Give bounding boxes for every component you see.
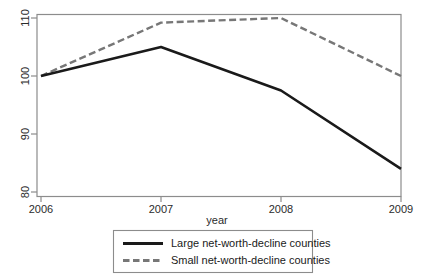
- x-axis-ticks: [41, 197, 401, 203]
- series-line-large-net-worth-decline: [41, 47, 401, 169]
- x-axis-title: year: [206, 214, 228, 226]
- legend-label-large: Large net-worth-decline counties: [171, 237, 331, 249]
- y-axis-tick-labels: 110 100 90 80: [19, 9, 31, 198]
- x-tick-label-2007: 2007: [149, 203, 173, 215]
- y-axis-ticks: [31, 18, 37, 192]
- y-tick-label-80: 80: [19, 186, 31, 198]
- y-tick-label-100: 100: [19, 67, 31, 85]
- y-tick-label-90: 90: [19, 128, 31, 140]
- series-lines: [41, 18, 401, 169]
- line-chart: 110 100 90 80 2006 2007 2008 2009 year: [0, 0, 425, 280]
- series-line-small-net-worth-decline: [41, 18, 401, 76]
- chart-legend: Large net-worth-decline counties Small n…: [114, 231, 332, 273]
- x-tick-label-2006: 2006: [29, 203, 53, 215]
- y-tick-label-110: 110: [19, 9, 31, 27]
- plot-frame: [37, 15, 401, 197]
- x-tick-label-2009: 2009: [389, 203, 413, 215]
- chart-figure: 110 100 90 80 2006 2007 2008 2009 year: [0, 0, 425, 280]
- legend-label-small: Small net-worth-decline counties: [171, 254, 330, 266]
- x-tick-label-2008: 2008: [269, 203, 293, 215]
